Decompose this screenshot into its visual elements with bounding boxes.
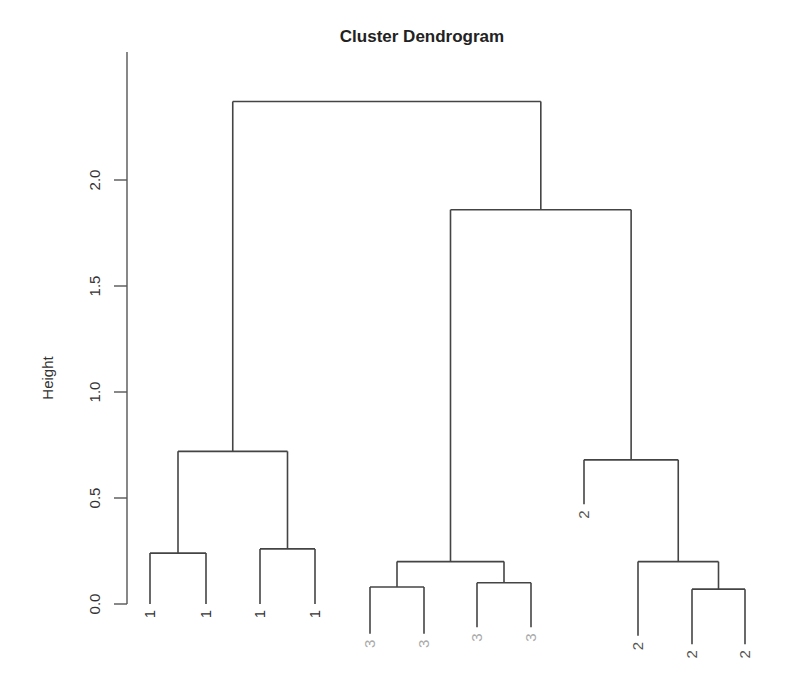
leaf-label: 3: [415, 640, 432, 648]
y-tick-label: 0.0: [86, 594, 103, 615]
leaf-label: 3: [522, 633, 539, 641]
y-tick-label: 1.0: [86, 382, 103, 403]
y-tick-label: 0.5: [86, 488, 103, 509]
leaf-label: 3: [361, 640, 378, 648]
chart-title: Cluster Dendrogram: [340, 27, 504, 46]
leaf-label: 2: [629, 642, 646, 650]
leaf-label: 2: [575, 510, 592, 518]
leaf-labels: 111133332222: [141, 510, 753, 658]
leaf-label: 1: [306, 610, 323, 618]
y-tick-label: 1.5: [86, 276, 103, 297]
dendrogram-tree: [150, 102, 745, 645]
leaf-label: 1: [197, 610, 214, 618]
leaf-label: 2: [736, 650, 753, 658]
leaf-label: 1: [141, 610, 158, 618]
y-tick-label: 2.0: [86, 170, 103, 191]
leaf-label: 3: [468, 633, 485, 641]
dendrogram-chart: Cluster Dendrogram 0.00.51.01.52.0 Heigh…: [0, 0, 792, 683]
leaf-label: 1: [251, 610, 268, 618]
leaf-label: 2: [683, 650, 700, 658]
y-axis-label: Height: [39, 355, 56, 399]
y-axis: 0.00.51.01.52.0: [86, 52, 127, 614]
